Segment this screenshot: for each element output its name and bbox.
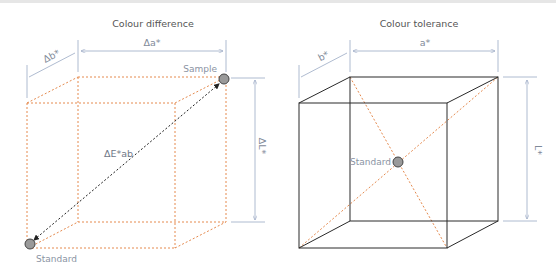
delta-e-label: ΔE*ab (104, 148, 133, 159)
standard-point (393, 157, 403, 167)
dimension-lines (27, 40, 265, 222)
l-label: L* (533, 145, 544, 155)
colour-difference-diagram: Colour difference Δb* Δa* ΔL* (25, 18, 268, 264)
a-label: a* (420, 37, 431, 48)
standard-label: Standard (36, 254, 77, 264)
delta-l-label: ΔL* (257, 138, 268, 155)
colour-diagrams: Colour difference Δb* Δa* ΔL* (0, 0, 556, 273)
standard-label: Standard (350, 157, 391, 167)
diagram-title: Colour difference (112, 18, 194, 29)
sample-label: Sample (183, 64, 217, 74)
standard-point (25, 239, 35, 249)
delta-b-label: Δb* (41, 47, 62, 65)
sample-point (219, 74, 229, 84)
delta-a-label: Δa* (143, 37, 160, 48)
colour-tolerance-diagram: Colour tolerance b* a* L* (299, 18, 544, 248)
delta-e-vector (34, 84, 219, 240)
dimension-lines (299, 40, 537, 221)
diagram-title: Colour tolerance (380, 18, 459, 29)
b-label: b* (316, 48, 331, 63)
